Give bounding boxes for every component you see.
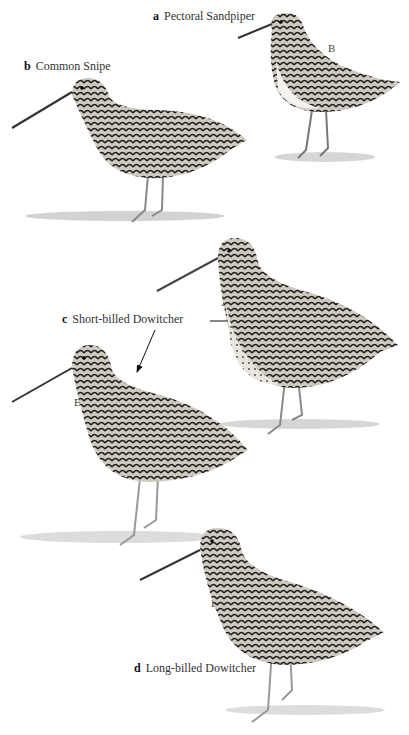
field-guide-plate: aPectoral Sandpiper B bCommon Snipe cSho… <box>0 0 409 735</box>
pointer-arrows <box>0 0 409 735</box>
common-snipe-illustration <box>12 78 247 222</box>
pectoral-sandpiper-illustration <box>238 13 400 162</box>
short-billed-dowitcher-breeding-illustration <box>12 345 248 545</box>
long-billed-dowitcher-illustration <box>140 528 385 722</box>
short-billed-dowitcher-juvenile-illustration <box>157 238 398 434</box>
